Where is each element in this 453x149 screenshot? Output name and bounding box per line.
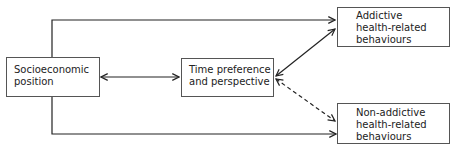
edge-socioeconomic-addictive xyxy=(52,20,335,57)
node-addictive-behaviours: Addictive health-related behaviours xyxy=(337,7,450,47)
edge-socioeconomic-non-addictive xyxy=(52,96,336,134)
node-label: Time preference and perspective xyxy=(189,64,273,88)
node-label: Socioeconomic position xyxy=(14,64,99,88)
node-socioeconomic-position: Socioeconomic position xyxy=(6,57,100,97)
node-label: Addictive health-related behaviours xyxy=(356,10,449,46)
node-label: Non-addictive health-related behaviours xyxy=(356,107,449,143)
edge-time-preference-non-addictive xyxy=(276,79,335,121)
edge-time-preference-addictive xyxy=(276,29,335,76)
node-non-addictive-behaviours: Non-addictive health-related behaviours xyxy=(337,103,450,144)
node-time-preference: Time preference and perspective xyxy=(181,58,274,97)
